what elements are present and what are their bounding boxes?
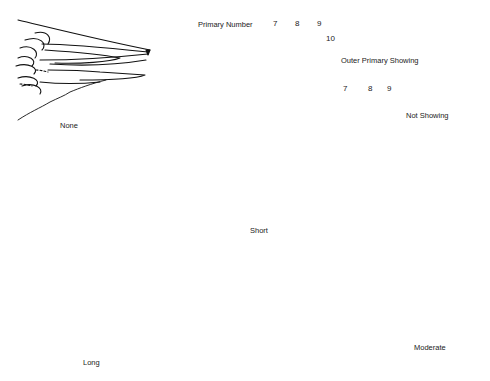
not-showing-number-7: 7 [343,84,347,93]
wing-label-long: Long [83,358,100,367]
not-showing-label: Not Showing [406,111,449,120]
outer-primary-showing-label: Outer Primary Showing [341,56,419,65]
wing-label-moderate: Moderate [414,343,446,352]
primary-number-label: Primary Number [198,20,253,29]
primary-number-9: 9 [317,19,321,28]
primary-number-8: 8 [295,19,299,28]
primary-number-7: 7 [273,19,277,28]
primary-number-10: 10 [326,34,335,43]
not-showing-number-8: 8 [368,84,372,93]
wing-none-drawing [16,20,150,120]
wing-label-short: Short [250,226,268,235]
not-showing-number-9: 9 [387,84,391,93]
wing-label-none: None [60,121,78,130]
